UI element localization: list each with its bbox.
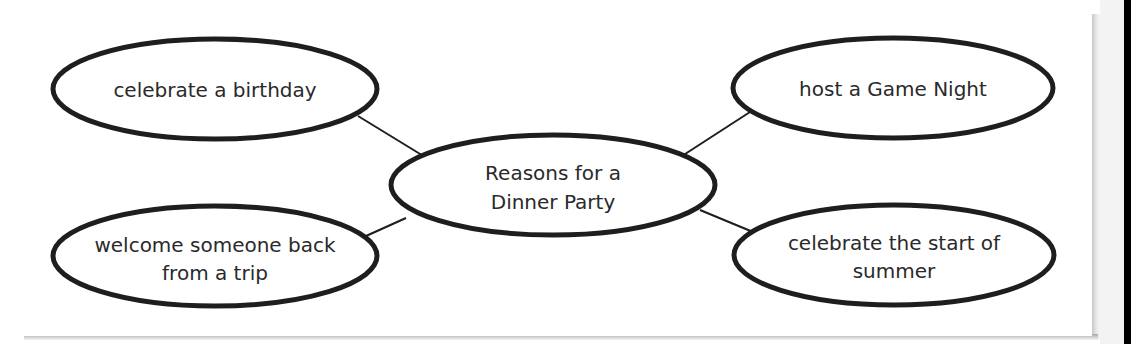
node-text: celebrate a birthday bbox=[113, 78, 316, 102]
node-top-right: host a Game Night bbox=[733, 38, 1053, 138]
node-text-line-1: celebrate the start of bbox=[788, 231, 1001, 255]
node-bottom-left: welcome someone back from a trip bbox=[53, 206, 377, 306]
node-text-line-2: summer bbox=[853, 259, 936, 283]
center-text-line-1: Reasons for a bbox=[485, 161, 621, 185]
node-text-line-2: from a trip bbox=[162, 261, 268, 285]
connector-top-left bbox=[358, 116, 425, 157]
connector-bottom-right bbox=[700, 210, 753, 232]
node-bottom-right: celebrate the start of summer bbox=[734, 205, 1054, 305]
node-text-line-1: welcome someone back bbox=[94, 233, 336, 257]
connector-bottom-left bbox=[366, 218, 406, 236]
node-text: host a Game Night bbox=[799, 77, 987, 101]
node-top-left: celebrate a birthday bbox=[53, 39, 377, 139]
center-text-line-2: Dinner Party bbox=[491, 190, 616, 214]
node-center: Reasons for a Dinner Party bbox=[391, 135, 715, 235]
web-diagram: celebrate a birthday host a Game Night R… bbox=[0, 0, 1131, 344]
connector-top-right bbox=[682, 112, 750, 156]
